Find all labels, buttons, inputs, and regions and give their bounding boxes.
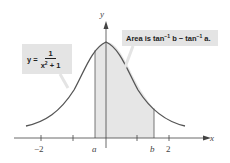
area-callout: Area is tan−1 b − tan−1 a. — [122, 30, 218, 46]
tick-label-2: 2 — [166, 144, 171, 154]
tick-label-neg2: −2 — [34, 144, 44, 154]
y-axis-arrow-icon — [104, 21, 109, 29]
formula-callout: y = 1 x2 + 1 — [22, 44, 72, 74]
tick-label-b: b — [150, 144, 155, 154]
formula-denominator: x2 + 1 — [41, 59, 61, 70]
tick-label-a: a — [92, 144, 97, 154]
graph: y x −2 a b 2 — [0, 0, 230, 163]
y-axis-label: y — [99, 9, 104, 19]
formula-lhs: y = — [27, 55, 38, 64]
shaded-area — [95, 42, 154, 138]
formula-numerator: 1 — [45, 49, 55, 59]
x-axis-label: x — [209, 133, 214, 143]
formula-pointer — [60, 74, 68, 88]
area-pointer — [124, 46, 133, 70]
